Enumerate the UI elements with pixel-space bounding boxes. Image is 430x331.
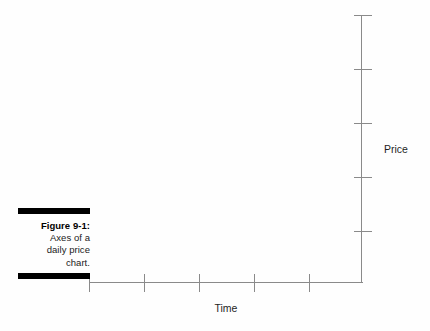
figure-caption-block: Figure 9-1: Axes of a daily price chart. [18,208,90,279]
x-axis-tick [309,274,310,292]
figure-number-label: Figure 9-1: [41,220,90,231]
x-axis-title: Time [0,302,430,314]
chart-plot-area: Price Time [0,0,430,331]
x-axis-tick [254,274,255,292]
caption-rule-top [18,208,90,214]
y-axis-tick [354,231,372,232]
x-axis-tick [199,274,200,292]
y-axis-tick [354,15,372,16]
x-axis-line [89,282,363,283]
figure-caption-text: Figure 9-1: Axes of a daily price chart. [18,220,90,269]
figure-caption-line: Axes of a [18,232,90,244]
x-axis-tick [144,274,145,292]
y-axis-line [361,15,362,283]
figure-container: Price Time Figure 9-1: Axes of a daily p… [0,0,430,331]
y-axis-title: Price [384,143,408,155]
y-axis-tick [354,177,372,178]
y-axis-tick [354,123,372,124]
figure-caption-line: daily price [18,244,90,256]
figure-caption-label-line: Figure 9-1: [18,220,90,232]
figure-caption-line: chart. [18,257,90,269]
y-axis-tick [354,69,372,70]
caption-rule-bottom [18,273,90,279]
